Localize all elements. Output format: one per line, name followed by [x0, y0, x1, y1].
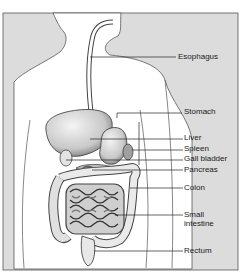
label-esophagus: Esophagus — [178, 52, 218, 61]
digestive-system-diagram — [0, 0, 240, 273]
label-colon: Colon — [184, 183, 205, 192]
small-intestine — [66, 184, 124, 234]
label-spleen: Spleen — [184, 144, 209, 153]
spleen — [123, 144, 133, 160]
label-stomach: Stomach — [184, 107, 216, 116]
label-pancreas: Pancreas — [184, 165, 218, 174]
label-gall-bladder: Gall bladder — [184, 154, 227, 163]
gall-bladder — [60, 150, 72, 166]
label-rectum: Rectum — [184, 246, 212, 255]
label-small-intestine: Small intestine — [184, 210, 224, 228]
label-liver: Liver — [184, 133, 201, 142]
